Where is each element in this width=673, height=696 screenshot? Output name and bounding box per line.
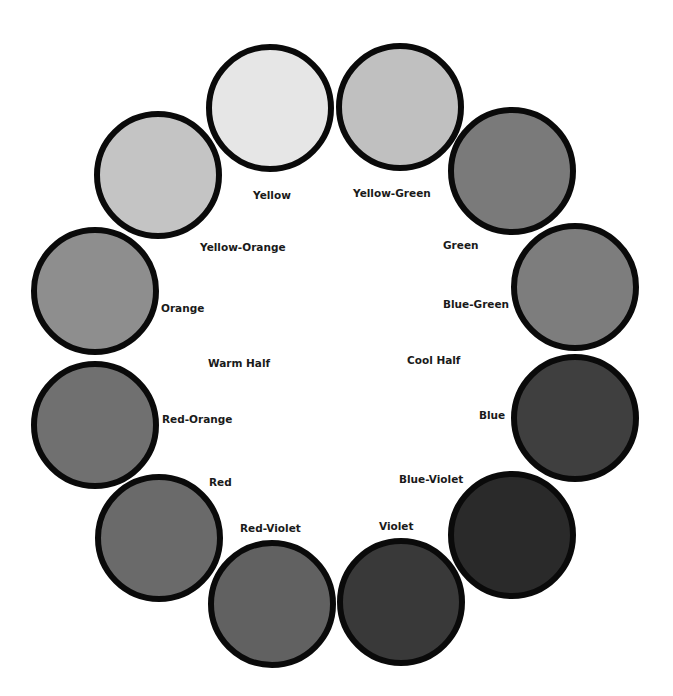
color-wheel-diagram: YellowYellow-GreenGreenBlue-GreenBlueBlu… [0, 0, 673, 696]
label-blue-violet: Blue-Violet [399, 473, 463, 485]
swatch-orange [31, 227, 159, 355]
label-yellow-green: Yellow-Green [353, 187, 431, 199]
label-red-orange: Red-Orange [162, 413, 232, 425]
label-yellow: Yellow [253, 189, 291, 201]
swatch-yellow [206, 44, 334, 172]
label-warm-half: Warm Half [208, 357, 270, 369]
label-cool-half: Cool Half [407, 354, 460, 366]
label-orange: Orange [161, 302, 204, 314]
swatch-blue [511, 354, 639, 482]
swatch-blue-green [511, 223, 639, 351]
swatch-red-violet [208, 540, 336, 668]
swatch-red [95, 474, 223, 602]
swatch-yellow-green [336, 43, 464, 171]
label-blue-green: Blue-Green [443, 298, 509, 310]
swatch-green [448, 107, 576, 235]
label-yellow-orange: Yellow-Orange [200, 241, 286, 253]
swatch-blue-violet [448, 471, 576, 599]
label-green: Green [443, 239, 479, 251]
label-red: Red [209, 476, 232, 488]
swatch-red-orange [31, 361, 159, 489]
swatch-violet [337, 538, 465, 666]
label-red-violet: Red-Violet [240, 522, 301, 534]
label-violet: Violet [379, 520, 414, 532]
label-blue: Blue [479, 409, 505, 421]
swatch-yellow-orange [94, 111, 222, 239]
